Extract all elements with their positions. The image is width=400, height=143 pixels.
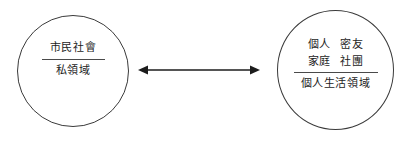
left-circle-top-label: 市民社會 [50,42,96,55]
diagram-canvas: 市民社會 私領域 個人 密友 家庭 社團 個人生活領域 [0,0,400,143]
double-headed-arrow-icon [138,62,260,78]
left-circle-node: 市民社會 私領域 [17,15,129,127]
right-circle-grid-cell-4: 社團 [340,52,363,68]
left-circle-divider [42,59,105,60]
left-circle-content: 市民社會 私領域 [18,42,128,78]
right-circle-divider [294,72,378,73]
right-circle-node: 個人 密友 家庭 社團 個人生活領域 [277,10,394,130]
right-circle-bottom-label: 個人生活領域 [301,78,371,91]
right-circle-content: 個人 密友 家庭 社團 個人生活領域 [278,35,393,91]
right-circle-grid-cell-3: 家庭 [308,52,331,68]
left-circle-bottom-label: 私領域 [56,65,91,78]
right-circle-grid-cell-1: 個人 [308,35,331,51]
right-circle-grid-cell-2: 密友 [340,35,363,51]
right-circle-label-grid: 個人 密友 家庭 社團 [308,35,363,68]
